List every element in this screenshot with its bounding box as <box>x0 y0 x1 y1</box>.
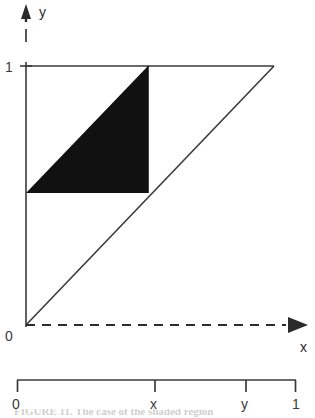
figure-container: y x 1 0 0 x y 1 FIGURE 11. The case of t… <box>0 0 315 418</box>
y-axis-arrow-icon <box>21 4 31 22</box>
math-figure: y x 1 0 0 x y 1 <box>0 0 315 418</box>
caption-strip: FIGURE 11. The case of the shaded region <box>0 409 315 418</box>
diagonal-line <box>26 66 274 325</box>
x-axis-arrow-icon <box>288 317 308 333</box>
y-axis-label: y <box>39 4 46 20</box>
x-axis-label: x <box>300 339 307 355</box>
y-axis-tick-label-1: 1 <box>5 59 13 75</box>
figure-caption: FIGURE 11. The case of the shaded region <box>14 409 213 417</box>
number-line: 0 x y 1 <box>12 380 300 412</box>
origin-label: 0 <box>5 328 13 344</box>
shaded-triangle <box>26 66 148 193</box>
